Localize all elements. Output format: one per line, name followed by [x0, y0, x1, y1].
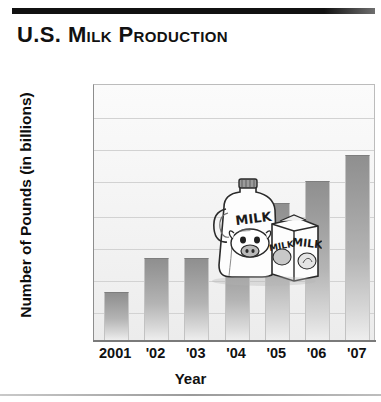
gridline — [94, 150, 374, 151]
milk-jug-and-carton-icon: MILK MILK MILK — [202, 177, 322, 289]
gridline — [94, 118, 374, 119]
plot-area: MILK MILK MILK — [93, 84, 375, 340]
x-axis-title: Year — [0, 370, 381, 387]
bottom-divider-rule — [0, 394, 381, 396]
bar-2001 — [104, 292, 129, 340]
bar-2002 — [144, 258, 169, 341]
bar-2007 — [345, 155, 370, 340]
x-tick-label-2007: '07 — [332, 345, 381, 361]
chart-page: U.S. Milk Production Number of Pounds (i… — [0, 0, 381, 402]
x-axis-line — [93, 340, 376, 342]
